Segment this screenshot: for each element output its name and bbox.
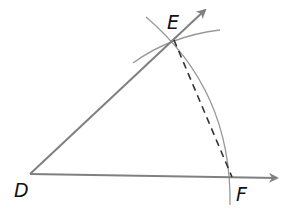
segment-EF-dashed	[174, 40, 232, 177]
diagram-canvas	[0, 0, 281, 213]
label-F: F	[236, 185, 247, 204]
geometry-diagram: E D F	[0, 0, 281, 213]
label-D: D	[14, 181, 29, 200]
ray-DF	[30, 174, 277, 178]
label-E: E	[167, 13, 179, 32]
ray-DE	[30, 10, 205, 174]
